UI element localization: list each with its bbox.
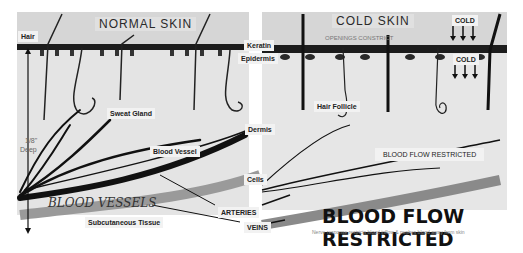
keratin-label: Keratin <box>244 40 274 51</box>
epidermis-label: Epidermis <box>238 53 278 64</box>
cold-top-label: COLD <box>452 15 478 26</box>
blood-flow-headline: BLOOD FLOW RESTRICTED <box>322 204 523 250</box>
openings-constrict-note: OPENINGS CONSTRICT <box>322 33 396 44</box>
cold-bottom-label: COLD <box>453 54 479 65</box>
hair-follicle-label: Hair Follicle <box>314 101 360 112</box>
normal-skin-title: NORMAL SKIN <box>95 17 196 31</box>
cold-skin-title: COLD SKIN <box>332 14 414 28</box>
cells-label: Cells <box>244 174 267 185</box>
hair-label: Hair <box>18 31 38 42</box>
depth-label: Deep <box>17 144 40 155</box>
dermis-label: Dermis <box>245 124 275 135</box>
caption: Nerve response restricts blood inflow & … <box>312 229 465 235</box>
blood-vessel-label: Blood Vessel <box>150 146 200 157</box>
blood-flow-box: BLOOD FLOW RESTRICTED <box>375 148 484 161</box>
sweat-gland-label: Sweat Gland <box>107 108 155 119</box>
arteries-label: ARTERIES <box>218 207 259 218</box>
subcutaneous-label: Subcutaneous Tissue <box>85 217 163 228</box>
blood-vessels-script: BLOOD VESSELS <box>48 196 157 210</box>
veins-label: VEINS <box>244 222 271 233</box>
